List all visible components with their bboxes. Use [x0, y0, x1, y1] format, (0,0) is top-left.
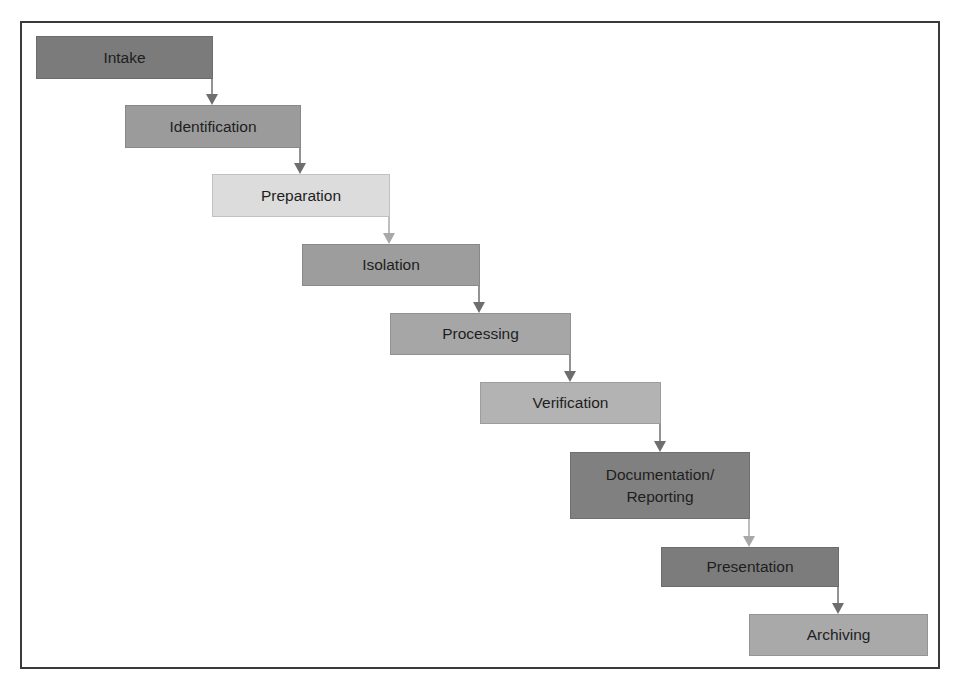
step-archiving: Archiving: [749, 614, 928, 656]
step-processing: Processing: [390, 313, 571, 355]
step-identification: Identification: [125, 105, 301, 148]
step-label: Presentation: [706, 556, 793, 578]
step-label: Processing: [442, 323, 519, 345]
step-label: Intake: [103, 47, 145, 69]
step-intake: Intake: [36, 36, 213, 79]
step-label: Preparation: [261, 185, 341, 207]
step-verification: Verification: [480, 382, 661, 424]
step-documentation-reporting: Documentation/ Reporting: [570, 452, 750, 519]
step-label: Documentation/ Reporting: [606, 464, 715, 508]
step-label: Verification: [533, 392, 609, 414]
step-presentation: Presentation: [661, 547, 839, 587]
step-preparation: Preparation: [212, 174, 390, 217]
step-label: Archiving: [807, 624, 871, 646]
step-label: Identification: [169, 116, 256, 138]
step-isolation: Isolation: [302, 244, 480, 286]
step-label: Isolation: [362, 254, 420, 276]
